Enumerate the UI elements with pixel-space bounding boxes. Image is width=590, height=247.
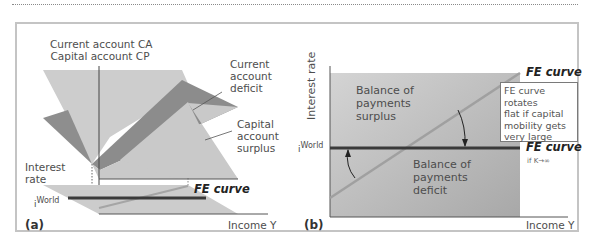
panel-b-fe-curve-label: FE curve: [526, 66, 582, 78]
panel-a-x-axis-label: Income Y: [228, 219, 276, 231]
panel-b-world-rate-label: iWorld: [298, 143, 323, 155]
panel-a-current-account-label: Current account CA: [50, 38, 150, 50]
fe-flat-condition: if K→∞: [527, 155, 550, 167]
panel-b-x-axis-label: Income Y: [526, 219, 574, 231]
panel-a-fe-curve-label: FE curve: [194, 183, 250, 195]
bop-surplus-label: Balance of payments surplus: [356, 84, 414, 123]
panel-b-fe-flat-label: FE curve: [526, 141, 582, 153]
panel-a-tag: (a): [25, 218, 44, 232]
panel-a-capital-account-label: Capital account CP: [50, 50, 150, 62]
current-account-deficit-label: Current account deficit: [230, 58, 272, 94]
bop-deficit-label: Balance of payments deficit: [413, 158, 471, 197]
panel-a-y-axis-label: Interest rate: [25, 161, 65, 185]
capital-account-surplus-label: Capital account surplus: [237, 118, 279, 154]
panel-b-tag: (b): [304, 218, 324, 232]
panel-b-y-axis-label: Interest rate: [306, 52, 318, 120]
panel-a-world-rate-label: iWorld: [34, 198, 59, 210]
fe-rotation-note: FE curve rotates flat if capital mobilit…: [500, 82, 578, 142]
